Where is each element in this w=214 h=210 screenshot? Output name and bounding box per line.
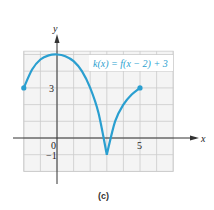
x-axis-label: x bbox=[200, 133, 206, 144]
y-axis-label: y bbox=[52, 23, 58, 34]
chart: k(x) = f(x − 2) + 3 x y 053−1 (c) bbox=[0, 0, 214, 210]
x-tick-label: 5 bbox=[137, 140, 142, 151]
y-tick-label: 3 bbox=[49, 83, 54, 94]
annotation: k(x) = f(x − 2) + 3 bbox=[93, 58, 168, 70]
y-axis-arrow bbox=[55, 34, 60, 43]
endpoint-dot bbox=[21, 85, 26, 90]
caption: (c) bbox=[98, 191, 109, 201]
endpoint-dot bbox=[137, 85, 142, 90]
y-tick-label: −1 bbox=[46, 150, 57, 161]
x-axis-arrow bbox=[190, 136, 199, 141]
